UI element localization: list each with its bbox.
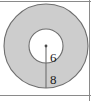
annulus-figure: 6 8 <box>0 0 91 101</box>
outer-radius-label: 8 <box>50 72 57 87</box>
center-point <box>45 45 48 48</box>
inner-radius-label: 6 <box>50 50 57 65</box>
